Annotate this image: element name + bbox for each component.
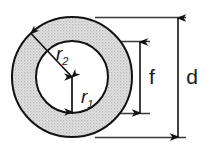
annulus-diagram-figure: r2 r1 f d	[0, 0, 206, 154]
annulus-diagram-canvas: r2 r1 f d	[0, 0, 206, 154]
d-dimension-label: d	[186, 65, 198, 88]
r2-label-subscript: 2	[61, 55, 68, 67]
f-dimension-label: f	[149, 65, 155, 88]
r1-label-subscript: 1	[87, 98, 93, 110]
annulus-body	[0, 0, 206, 154]
